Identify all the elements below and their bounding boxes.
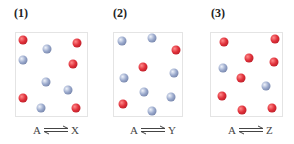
blue-sphere bbox=[148, 34, 157, 43]
blue-sphere bbox=[140, 88, 149, 97]
panel-3-equation: A Z bbox=[228, 124, 273, 136]
red-sphere bbox=[245, 54, 254, 63]
red-sphere bbox=[139, 63, 148, 72]
red-sphere bbox=[172, 46, 181, 55]
blue-sphere bbox=[170, 69, 179, 78]
blue-sphere bbox=[43, 45, 52, 54]
blue-sphere bbox=[120, 74, 129, 83]
product-label: Y bbox=[168, 124, 176, 136]
red-sphere bbox=[218, 92, 227, 101]
reactant-label: A bbox=[33, 124, 41, 136]
panel-3-label: (3) bbox=[211, 6, 225, 21]
blue-sphere bbox=[219, 64, 228, 73]
equilibrium-arrows-icon bbox=[238, 125, 264, 135]
red-sphere bbox=[270, 58, 279, 67]
red-sphere bbox=[238, 106, 247, 115]
red-sphere bbox=[19, 94, 28, 103]
red-sphere bbox=[73, 39, 82, 48]
red-sphere bbox=[220, 38, 229, 47]
red-sphere bbox=[268, 104, 277, 113]
panel-1-equation: A X bbox=[33, 124, 79, 136]
reactant-label: A bbox=[130, 124, 138, 136]
blue-sphere bbox=[37, 104, 46, 113]
equilibrium-arrows-icon bbox=[140, 125, 166, 135]
blue-sphere bbox=[19, 56, 28, 65]
red-sphere bbox=[237, 74, 246, 83]
blue-sphere bbox=[42, 78, 51, 87]
reactant-label: A bbox=[228, 124, 236, 136]
red-sphere bbox=[119, 100, 128, 109]
equilibrium-arrows-icon bbox=[43, 125, 69, 135]
panel-1-label: (1) bbox=[14, 6, 28, 21]
product-label: Z bbox=[266, 124, 273, 136]
red-sphere bbox=[69, 60, 78, 69]
blue-sphere bbox=[167, 93, 176, 102]
red-sphere bbox=[271, 35, 280, 44]
panel-2-equation: A Y bbox=[130, 124, 176, 136]
blue-sphere bbox=[118, 37, 127, 46]
panel-2-label: (2) bbox=[113, 6, 127, 21]
blue-sphere bbox=[262, 82, 271, 91]
red-sphere bbox=[19, 36, 28, 45]
red-sphere bbox=[72, 104, 81, 113]
blue-sphere bbox=[148, 107, 157, 116]
product-label: X bbox=[71, 124, 79, 136]
blue-sphere bbox=[64, 86, 73, 95]
